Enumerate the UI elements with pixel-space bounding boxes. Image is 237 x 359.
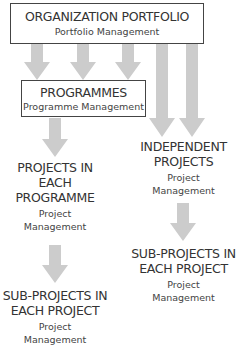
node-subtitle-line: Management xyxy=(0,334,110,347)
node-subtitle-line: Project xyxy=(0,321,110,334)
node-sub-projects-right: SUB-PROJECTS IN EACH PROJECT Project Man… xyxy=(130,246,237,304)
node-subtitle-line: Management xyxy=(0,221,110,234)
arrow-down-icon xyxy=(179,44,205,137)
arrow-down-icon xyxy=(115,44,141,80)
node-title-line: EACH PROJECT xyxy=(0,303,110,318)
node-title-line: SUB-PROJECTS IN xyxy=(0,288,110,303)
node-title-line: PROJECTS IN xyxy=(0,160,110,175)
node-title: PROGRAMMES xyxy=(22,85,145,100)
node-subtitle: Portfolio Management xyxy=(11,26,203,39)
node-organization-portfolio: ORGANIZATION PORTFOLIO Portfolio Managem… xyxy=(10,3,204,44)
arrow-down-icon xyxy=(70,44,96,80)
node-subtitle-line: Project xyxy=(130,172,237,185)
node-title-line: PROJECTS xyxy=(130,154,237,169)
arrow-down-icon xyxy=(149,44,175,137)
arrow-down-icon xyxy=(42,245,68,283)
node-subtitle-line: Management xyxy=(130,185,237,198)
node-title-line: PROGRAMME xyxy=(0,190,110,205)
arrow-down-icon xyxy=(42,118,68,157)
node-title-line: EACH xyxy=(0,175,110,190)
node-subtitle: Programme Management xyxy=(22,101,145,114)
arrow-down-icon xyxy=(24,44,50,80)
node-subtitle-line: Project xyxy=(130,279,237,292)
node-title: ORGANIZATION PORTFOLIO xyxy=(11,9,203,24)
node-title-line: SUB-PROJECTS IN xyxy=(130,246,237,261)
node-programmes: PROGRAMMES Programme Management xyxy=(21,80,146,117)
node-subtitle-line: Management xyxy=(130,292,237,305)
node-sub-projects-left: SUB-PROJECTS IN EACH PROJECT Project Man… xyxy=(0,288,110,346)
node-title-line: INDEPENDENT xyxy=(130,139,237,154)
node-independent-projects: INDEPENDENT PROJECTS Project Management xyxy=(130,139,237,197)
arrow-down-icon xyxy=(170,203,196,241)
node-title-line: EACH PROJECT xyxy=(130,261,237,276)
node-projects-in-each-programme: PROJECTS IN EACH PROGRAMME Project Manag… xyxy=(0,160,110,233)
node-subtitle-line: Project xyxy=(0,208,110,221)
